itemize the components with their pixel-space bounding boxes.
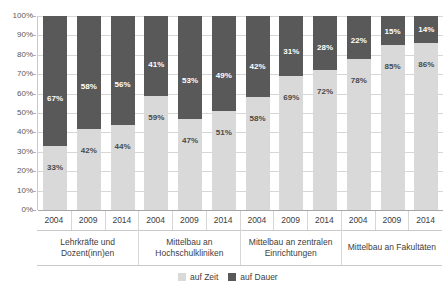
stacked-bar[interactable]: 58%42% (246, 16, 270, 210)
data-label-auf-dauer: 67% (43, 94, 67, 103)
bar-segment-auf-zeit[interactable] (111, 125, 135, 210)
bar-slot: 69%31% (274, 16, 308, 210)
y-axis-tick-label: 70% (0, 70, 33, 78)
y-axis-tick-label: 80% (0, 51, 33, 59)
legend-swatch-icon (178, 273, 186, 281)
x-axis-year-label: 2004 (37, 211, 71, 230)
y-axis: 100%90%80%70%60%50%40%30%20%10%0% (0, 16, 33, 210)
stacked-bar[interactable]: 47%53% (178, 16, 202, 210)
bar-segment-auf-dauer[interactable] (246, 16, 270, 97)
data-label-auf-zeit: 85% (381, 62, 405, 71)
y-tick-mark (33, 16, 36, 17)
data-label-auf-zeit: 47% (178, 136, 202, 145)
bar-segment-auf-dauer[interactable] (144, 16, 168, 96)
chart-container: 100%90%80%70%60%50%40%30%20%10%0% 33%67%… (0, 0, 447, 292)
data-label-auf-zeit: 42% (77, 146, 101, 155)
data-label-auf-dauer: 49% (212, 71, 236, 80)
y-axis-tick-label: 40% (0, 128, 33, 136)
data-label-auf-zeit: 33% (43, 163, 67, 172)
group-label-line1: Mittelbau an zentralen (249, 237, 333, 248)
data-label-auf-dauer: 42% (246, 62, 270, 71)
y-tick-mark (33, 132, 36, 133)
stacked-bar[interactable]: 44%56% (111, 16, 135, 210)
x-axis-year-label: 2009 (375, 211, 409, 230)
legend-swatch-icon (228, 273, 236, 281)
x-axis-group-label: Lehrkräfte undDozent(inn)en (37, 230, 138, 265)
x-axis-group-label: Mittelbau an zentralenEinrichtungen (240, 230, 341, 265)
group-label-line1: Mittelbau an (155, 237, 223, 248)
bar-segment-auf-dauer[interactable] (77, 16, 101, 129)
stacked-bar[interactable]: 85%15% (381, 16, 405, 210)
y-tick-mark (33, 210, 36, 211)
y-tick-mark (33, 74, 36, 75)
x-axis-year-label: 2004 (138, 211, 172, 230)
x-axis-year-label: 2014 (408, 211, 442, 230)
bar-segment-auf-dauer[interactable] (212, 16, 236, 111)
bar-segment-auf-zeit[interactable] (77, 129, 101, 210)
bar-slot: 42%58% (72, 16, 106, 210)
y-tick-mark (33, 113, 36, 114)
group-label-text: Mittelbau an zentralenEinrichtungen (249, 237, 333, 259)
y-axis-tick-label: 90% (0, 31, 33, 39)
chart-legend: auf Zeitauf Dauer (178, 271, 278, 283)
y-axis-tick-label: 30% (0, 148, 33, 156)
stacked-bar[interactable]: 33%67% (43, 16, 67, 210)
y-axis-tick-label: 50% (0, 109, 33, 117)
x-axis-group-label: Mittelbau an Fakultäten (341, 230, 442, 265)
bar-slot: 58%42% (241, 16, 275, 210)
y-tick-mark (33, 55, 36, 56)
x-axis-year-row: 2004200920142004200920142004200920142004… (37, 211, 442, 231)
x-axis-year-label: 2014 (307, 211, 341, 230)
x-axis-year-label: 2009 (273, 211, 307, 230)
x-axis-year-label: 2004 (240, 211, 274, 230)
group-label-line1: Mittelbau an Fakultäten (348, 242, 436, 253)
bar-slot: 86%14% (409, 16, 443, 210)
bar-segment-auf-zeit[interactable] (178, 119, 202, 210)
bar-slot: 44%56% (106, 16, 140, 210)
x-axis-year-label: 2014 (206, 211, 240, 230)
stacked-bar[interactable]: 78%22% (347, 16, 371, 210)
stacked-bar[interactable]: 69%31% (279, 16, 303, 210)
data-label-auf-zeit: 72% (313, 87, 337, 96)
bar-segment-auf-zeit[interactable] (43, 146, 67, 210)
bar-segment-auf-dauer[interactable] (111, 16, 135, 125)
stacked-bar[interactable]: 72%28% (313, 16, 337, 210)
bar-segment-auf-dauer[interactable] (279, 16, 303, 76)
legend-label: auf Zeit (190, 273, 218, 282)
x-axis-year-label: 2009 (71, 211, 105, 230)
y-axis-tick-label: 0% (0, 206, 33, 214)
group-label-line2: Einrichtungen (249, 248, 333, 259)
y-tick-mark (33, 94, 36, 95)
legend-item[interactable]: auf Dauer (228, 273, 277, 282)
bar-segment-auf-dauer[interactable] (178, 16, 202, 119)
bar-slot: 85%15% (376, 16, 410, 210)
stacked-bar[interactable]: 42%58% (77, 16, 101, 210)
bar-slot: 72%28% (308, 16, 342, 210)
stacked-bar[interactable]: 86%14% (414, 16, 438, 210)
group-label-text: Mittelbau an Fakultäten (348, 242, 436, 253)
bar-segment-auf-zeit[interactable] (212, 111, 236, 210)
stacked-bar[interactable]: 51%49% (212, 16, 236, 210)
group-label-line2: Hochschulkliniken (155, 248, 223, 259)
y-tick-mark (33, 35, 36, 36)
data-label-auf-zeit: 59% (144, 113, 168, 122)
data-label-auf-dauer: 41% (144, 60, 168, 69)
y-axis-tick-label: 10% (0, 187, 33, 195)
stacked-bar[interactable]: 59%41% (144, 16, 168, 210)
y-tick-mark (33, 152, 36, 153)
data-label-auf-dauer: 28% (313, 43, 337, 52)
bar-segment-auf-dauer[interactable] (43, 16, 67, 146)
legend-item[interactable]: auf Zeit (178, 273, 218, 282)
x-axis-category-row: Lehrkräfte undDozent(inn)enMittelbau anH… (37, 230, 442, 266)
y-tick-mark (33, 171, 36, 172)
bar-slot: 33%67% (38, 16, 72, 210)
data-label-auf-zeit: 69% (279, 93, 303, 102)
data-label-auf-dauer: 56% (111, 80, 135, 89)
data-label-auf-zeit: 58% (246, 114, 270, 123)
x-axis-group-label: Mittelbau anHochschulkliniken (138, 230, 239, 265)
x-axis-year-label: 2009 (172, 211, 206, 230)
y-tick-mark (33, 191, 36, 192)
group-label-line1: Lehrkräfte und (60, 237, 115, 248)
bar-slot: 47%53% (173, 16, 207, 210)
plot-area: 33%67%42%58%44%56%59%41%47%53%51%49%58%4… (37, 16, 442, 210)
